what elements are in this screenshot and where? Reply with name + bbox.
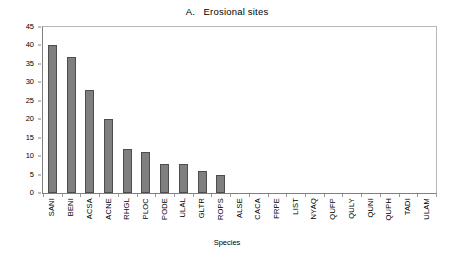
x-axis-tick-mark [324,194,325,197]
x-axis-category-label: QUFP [329,198,337,220]
erosional-sites-bar-chart: A. Erosional sites 051015202530354045 SA… [0,0,454,257]
x-axis-category-label: LIST [292,198,300,215]
x-axis-tick-mark [174,194,175,197]
x-axis-tick-mark [249,194,250,197]
x-axis-tick-mark [80,194,81,197]
x-axis-tick-mark [211,194,212,197]
bar [104,119,113,193]
bars-layer [43,27,436,193]
y-axis-tick-mark [38,137,41,138]
bar [198,171,207,193]
x-axis-category-label: PODE [161,198,169,220]
y-axis-tick-mark [38,156,41,157]
x-axis-tick-mark [380,194,381,197]
x-axis-tick-mark [137,194,138,197]
x-axis-category-label: TADI [404,198,412,215]
y-axis-tick-mark [38,82,41,83]
x-axis-tick-mark [118,194,119,197]
x-axis-tick-mark [230,194,231,197]
x-axis-tick-mark [399,194,400,197]
x-axis-tick-mark [62,194,63,197]
x-axis-category-label: NYAQ [310,198,318,220]
x-axis-category-label: ROPS [217,198,225,220]
bar [160,164,169,194]
y-axis-ticks [0,26,42,194]
x-axis-category-label: QUNI [367,198,375,218]
y-axis-tick-mark [38,174,41,175]
x-axis-category-label: ULAL [179,198,187,218]
x-axis-tick-mark [361,194,362,197]
y-axis-tick-mark [38,27,41,28]
bar [179,164,188,194]
x-axis-tick-mark [193,194,194,197]
x-axis-category-label: FRPE [273,198,281,219]
x-axis-category-label: CACA [254,198,262,220]
x-axis-tick-mark [268,194,269,197]
x-axis-tick-mark [99,194,100,197]
x-axis-tick-mark [417,194,418,197]
x-axis-title: Species [0,238,454,247]
bar [67,57,76,193]
x-axis-category-label: SANI [48,198,56,216]
y-axis-tick-mark [38,119,41,120]
bar [123,149,132,193]
x-axis-tick-mark [286,194,287,197]
bar [141,152,150,193]
x-axis-category-label: QUPH [385,198,393,220]
x-axis-tick-mark [305,194,306,197]
x-axis-category-label: ALSE [236,198,244,218]
y-axis-tick-mark [38,100,41,101]
x-axis-labels: SANIBENIACSAACNERHGLPLOCPODEULALGLTRROPS… [43,198,436,234]
y-axis-tick-mark [38,45,41,46]
x-axis-tick-mark [342,194,343,197]
x-axis-tick-mark [43,194,44,197]
bar [48,45,57,193]
x-axis-tick-mark [155,194,156,197]
x-axis-category-label: ULAM [423,198,431,220]
x-axis-category-label: RHGL [123,198,131,220]
bar [216,175,225,193]
x-axis-category-label: ACSA [86,198,94,219]
x-axis-category-label: PLOC [142,198,150,219]
y-axis-tick-mark [38,63,41,64]
chart-title: A. Erosional sites [0,6,454,17]
x-axis-tick-mark [436,194,437,197]
bar [85,90,94,193]
x-axis-category-label: GLTR [198,198,206,218]
x-axis-category-label: ACNE [105,198,113,220]
x-axis-category-label: QULY [348,198,356,219]
x-axis-category-label: BENI [67,198,75,216]
y-axis-tick-mark [38,193,41,194]
